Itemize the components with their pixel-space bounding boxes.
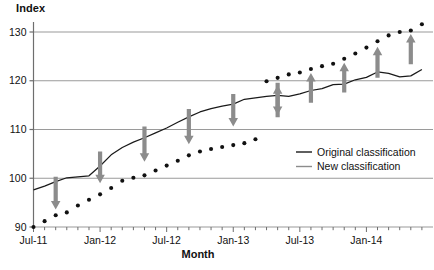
x-tick-label: Jan-14 (350, 234, 382, 246)
series-new-classification-point (231, 143, 235, 147)
x-axis-title-text: Month (182, 248, 215, 260)
y-tick-label: 130 (9, 26, 27, 38)
series-new-classification-point (287, 72, 291, 76)
series-new-classification-point (309, 67, 313, 71)
series-new-classification-point (409, 28, 413, 32)
series-new-classification-point (209, 147, 213, 151)
series-new-classification-point (54, 213, 58, 217)
series-new-classification-point (420, 22, 424, 26)
series-new-classification-point (165, 164, 169, 168)
annotation-arrows-group (51, 34, 416, 210)
series-new-classification-point (120, 179, 124, 183)
series-new-classification-point (276, 76, 280, 80)
series-new-classification-point (253, 137, 257, 141)
series-new-classification-point (87, 198, 91, 202)
series-new-classification-point (65, 210, 69, 214)
gridlines-group (34, 32, 434, 227)
y-tick-label: 120 (9, 74, 27, 86)
series-new-classification-point (331, 62, 335, 66)
plot-series-group (31, 22, 424, 229)
series-new-classification-point (43, 219, 47, 223)
up-arrow-annotation (306, 73, 316, 103)
series-new-classification-point (109, 186, 113, 190)
y-tick-label: 90 (15, 221, 27, 233)
x-axis-group: Jul-11Jan-12Jul-12Jan-13Jul-13Jan-14 (20, 227, 422, 246)
x-tick-label: Jan-12 (84, 234, 116, 246)
down-arrow-annotation (140, 127, 150, 162)
legend-label: New classification (317, 160, 401, 172)
series-new-classification-point (398, 30, 402, 34)
y-tick-label: 110 (10, 123, 27, 135)
series-new-classification-point (375, 39, 379, 43)
series-new-classification-point (142, 173, 146, 177)
y-axis-group: 90100110120130 (9, 22, 34, 233)
x-tick-label: Jan-13 (217, 234, 249, 246)
series-new-classification-point (242, 141, 246, 145)
down-arrow-annotation (51, 177, 61, 210)
series-new-classification-point (364, 46, 368, 50)
series-new-classification-point (320, 64, 324, 68)
series-new-classification-point (342, 57, 346, 61)
legend-group: Original classificationNew classificatio… (296, 146, 416, 173)
series-new-classification-point (131, 176, 135, 180)
x-tick-label: Jul-13 (286, 234, 315, 246)
series-new-classification-point (154, 168, 158, 172)
down-arrow-annotation (184, 109, 194, 144)
series-new-classification-point (353, 51, 357, 55)
series-new-classification-point (387, 33, 391, 37)
series-new-classification-point (264, 79, 268, 83)
up-arrow-annotation (339, 63, 349, 93)
down-arrow-annotation (229, 94, 239, 127)
up-arrow-annotation (406, 34, 416, 64)
series-new-classification-point (220, 145, 224, 149)
up-arrow-annotation (273, 85, 283, 117)
x-axis-title: Month (0, 248, 434, 260)
x-tick-label: Jul-12 (152, 234, 181, 246)
series-new-classification-point (98, 192, 102, 196)
series-new-classification-point (298, 70, 302, 74)
series-new-classification-point (31, 225, 35, 229)
x-tick-label: Jul-11 (20, 234, 48, 246)
chart-svg: 90100110120130 Jul-11Jan-12Jul-12Jan-13J… (0, 0, 434, 270)
legend-label: Original classification (317, 146, 416, 158)
y-tick-label: 100 (9, 172, 27, 184)
series-new-classification-point (76, 204, 80, 208)
series-new-classification-point (187, 153, 191, 157)
series-new-classification-point (176, 159, 180, 163)
chart-container: Index 90100110120130 Jul-11Jan-12Jul-12J… (0, 0, 434, 270)
series-new-classification-point (198, 149, 202, 153)
